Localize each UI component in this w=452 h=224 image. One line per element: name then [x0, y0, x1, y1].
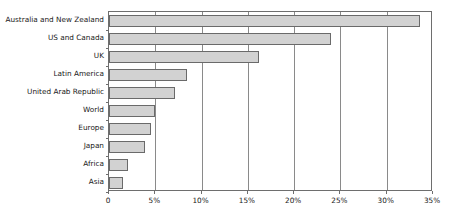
bar-row	[109, 138, 431, 156]
plot-area	[108, 11, 432, 191]
category-tick	[106, 138, 109, 139]
value-tick-label: 35%	[424, 196, 440, 205]
category-tick	[106, 30, 109, 31]
bar-row	[109, 174, 431, 192]
value-tick	[154, 191, 155, 194]
bar-row	[109, 120, 431, 138]
category-tick	[106, 48, 109, 49]
value-tick	[247, 191, 248, 194]
bar[interactable]	[109, 51, 259, 63]
bar-row	[109, 48, 431, 66]
value-tick-label: 10%	[192, 196, 208, 205]
bar[interactable]	[109, 141, 145, 153]
category-label: United Arab Republic	[0, 83, 104, 101]
category-label: UK	[0, 47, 104, 65]
value-tick-label: 25%	[331, 196, 347, 205]
category-tick	[106, 174, 109, 175]
value-axis: 05%10%15%20%25%30%35%	[108, 191, 432, 217]
value-tick-label: 5%	[148, 196, 160, 205]
bar[interactable]	[109, 87, 175, 99]
bar[interactable]	[109, 123, 151, 135]
bar[interactable]	[109, 105, 155, 117]
category-axis-labels: Australia and New ZealandUS and CanadaUK…	[0, 11, 104, 191]
category-tick	[106, 66, 109, 67]
category-tick	[106, 84, 109, 85]
category-label: Australia and New Zealand	[0, 11, 104, 29]
bar[interactable]	[109, 69, 187, 81]
value-tick	[386, 191, 387, 194]
value-tick-label: 0	[106, 196, 111, 205]
bar-row	[109, 12, 431, 30]
value-tick	[293, 191, 294, 194]
value-tick	[432, 191, 433, 194]
category-label: World	[0, 101, 104, 119]
category-label: Asia	[0, 173, 104, 191]
bar-row	[109, 84, 431, 102]
value-tick	[108, 191, 109, 194]
category-label: Africa	[0, 155, 104, 173]
value-tick-label: 20%	[285, 196, 301, 205]
bar[interactable]	[109, 15, 420, 27]
value-tick-label: 30%	[378, 196, 394, 205]
category-label: Latin America	[0, 65, 104, 83]
bar[interactable]	[109, 159, 128, 171]
bar[interactable]	[109, 33, 331, 45]
category-label: US and Canada	[0, 29, 104, 47]
bar-row	[109, 156, 431, 174]
bar-row	[109, 30, 431, 48]
bar-chart: Australia and New ZealandUS and CanadaUK…	[0, 0, 452, 224]
category-label: Europe	[0, 119, 104, 137]
category-label: Japan	[0, 137, 104, 155]
category-tick	[106, 120, 109, 121]
bar[interactable]	[109, 177, 123, 189]
bar-row	[109, 66, 431, 84]
category-tick	[106, 102, 109, 103]
bar-row	[109, 102, 431, 120]
value-tick-label: 15%	[239, 196, 255, 205]
category-tick	[106, 156, 109, 157]
value-tick	[339, 191, 340, 194]
value-tick	[201, 191, 202, 194]
